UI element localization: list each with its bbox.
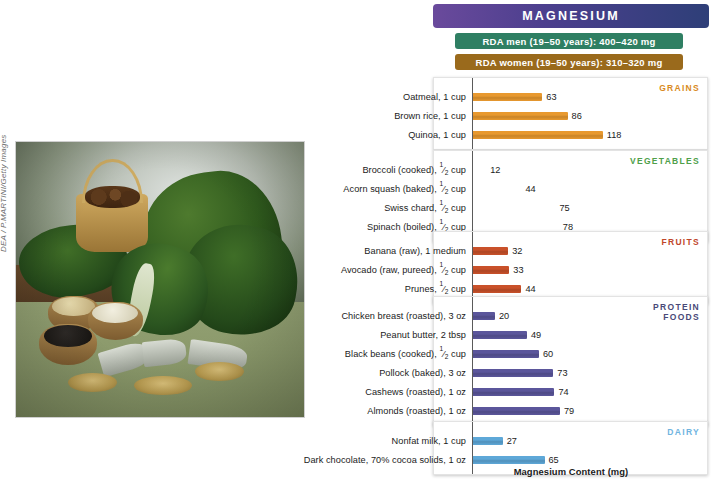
bar-row: Banana (raw), 1 medium32 [434,241,707,260]
bar-rows: Nonfat milk, 1 cup27Dark chocolate, 70% … [434,422,707,469]
bar-label: Spinach (boiled), 1⁄2 cup [46,220,466,234]
bar-row: Nonfat milk, 1 cup27 [434,431,707,450]
bar-label: Oatmeal, 1 cup [46,92,466,102]
bar-label: Chicken breast (roasted), 3 oz [46,311,466,321]
bar [473,437,503,445]
bar-value: 27 [507,436,517,446]
bar-value: 65 [549,455,559,465]
bar-with-value: 118 [473,130,621,140]
bar-with-value: 73 [473,368,568,378]
bar-label: Cashews (roasted), 1 oz [46,387,466,397]
bar-label: Prunes, 1⁄2 cup [46,282,466,296]
bar-label: Broccoli (cooked), 1⁄2 cup [46,163,466,177]
rda-men-badge: RDA men (19–50 years): 400–420 mg [455,33,683,49]
bar-value: 60 [543,349,553,359]
bar-row: Oatmeal, 1 cup63 [434,87,707,106]
bar-rows: Banana (raw), 1 medium32Avocado (raw, pu… [434,232,707,298]
bar-with-value: 78 [473,222,573,232]
bar-value: 79 [564,406,574,416]
bar [473,93,542,101]
bar [473,204,556,212]
photo-credit: DEA / P.MARTINI/Getty Images [0,135,8,253]
bar-with-value: 75 [473,203,570,213]
rda-women-row: RDA women (19–50 years): 310–320 mg [433,54,709,70]
bar [473,131,603,139]
bar-with-value: 20 [473,311,509,321]
bar [473,369,553,377]
bar-label: Pollock (baked), 3 oz [46,368,466,378]
bar-label: Swiss chard, 1⁄2 cup [46,201,466,215]
bar-rows: Oatmeal, 1 cup63Brown rice, 1 cup86Quino… [434,78,707,144]
bar-row: Cashews (roasted), 1 oz74 [434,382,707,401]
bar-value: 86 [572,111,582,121]
bar-row: Black beans (cooked), 1⁄2 cup60 [434,344,707,363]
bar-with-value: 27 [473,436,517,446]
bar-value: 20 [499,311,509,321]
bar-value: 78 [563,222,573,232]
bar-with-value: 49 [473,330,541,340]
bar-rows: Chicken breast (roasted), 3 oz20Peanut b… [434,297,707,420]
bar-value: 73 [557,368,567,378]
food-group-card-grains: GRAINSOatmeal, 1 cup63Brown rice, 1 cup8… [433,77,708,150]
bar-label: Almonds (roasted), 1 oz [46,406,466,416]
rda-men-row: RDA men (19–50 years): 400–420 mg [433,33,709,49]
bar-with-value: 60 [473,349,553,359]
bar-value: 32 [512,246,522,256]
bar-row: Brown rice, 1 cup86 [434,106,707,125]
bar [473,407,560,415]
bar-value: 12 [490,165,500,175]
bar-with-value: 12 [473,165,500,175]
bar-label: Brown rice, 1 cup [46,111,466,121]
bar [473,166,486,174]
bar-label: Peanut butter, 2 tbsp [46,330,466,340]
bar-with-value: 33 [473,265,524,275]
bar-with-value: 74 [473,387,569,397]
bar-label: Dark chocolate, 70% cocoa solids, 1 oz [46,455,466,465]
bar-value: 44 [525,184,535,194]
bar [473,350,539,358]
bar-value: 118 [607,130,622,140]
bar-label: Nonfat milk, 1 cup [46,436,466,446]
bar-row: Acorn squash (baked), 1⁄2 cup44 [434,179,707,198]
bar [473,266,509,274]
bar-label: Avocado (raw, pureed), 1⁄2 cup [46,263,466,277]
bar [473,247,508,255]
bar-with-value: 63 [473,92,557,102]
bar-value: 49 [531,330,541,340]
bar-row: Swiss chard, 1⁄2 cup75 [434,198,707,217]
bar-with-value: 65 [473,455,559,465]
food-group-card-fruits: FRUITSBanana (raw), 1 medium32Avocado (r… [433,231,708,304]
bar-value: 33 [513,265,523,275]
bar-with-value: 44 [473,184,536,194]
bar-label: Black beans (cooked), 1⁄2 cup [46,347,466,361]
bar [473,285,521,293]
bar [473,112,568,120]
bar-label: Banana (raw), 1 medium [46,246,466,256]
nutrient-title-banner: MAGNESIUM [433,4,709,28]
food-group-card-vegetables: VEGETABLESBroccoli (cooked), 1⁄2 cup12Ac… [433,150,708,242]
bar-row: Chicken breast (roasted), 3 oz20 [434,306,707,325]
bar [473,185,521,193]
bar-value: 75 [560,203,570,213]
bar-rows: Broccoli (cooked), 1⁄2 cup12Acorn squash… [434,151,707,236]
rda-women-badge: RDA women (19–50 years): 310–320 mg [455,54,683,70]
bar-label: Quinoa, 1 cup [46,130,466,140]
bar [473,331,527,339]
bar-with-value: 86 [473,111,582,121]
bar-row: Quinoa, 1 cup118 [434,125,707,144]
bar [473,312,495,320]
bar-with-value: 79 [473,406,574,416]
bar-value: 44 [525,284,535,294]
bar [473,456,545,464]
food-group-card-protein-foods: PROTEINFOODSChicken breast (roasted), 3 … [433,296,708,426]
bar [473,223,559,231]
bar-with-value: 32 [473,246,522,256]
bar-value: 63 [546,92,556,102]
bar-row: Pollock (baked), 3 oz73 [434,363,707,382]
bar-row: Broccoli (cooked), 1⁄2 cup12 [434,160,707,179]
x-axis-caption: Magnesium Content (mg) [433,466,709,477]
bar [473,388,554,396]
bar-row: Avocado (raw, pureed), 1⁄2 cup33 [434,260,707,279]
bar-with-value: 44 [473,284,536,294]
bar-row: Almonds (roasted), 1 oz79 [434,401,707,420]
